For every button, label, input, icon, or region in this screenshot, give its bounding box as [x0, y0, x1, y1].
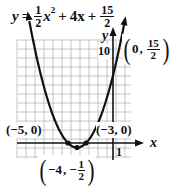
label-vertex: ( −4 , − 1 2 ): [38, 155, 96, 185]
point-vertex: [74, 145, 79, 150]
grid: [17, 40, 131, 158]
label-left-root: (−5, 0): [6, 122, 42, 138]
y-axis-label: y: [102, 28, 108, 44]
y-axis-arrow-icon: [110, 27, 117, 36]
curve-arrow-left-icon: [26, 11, 33, 20]
x-axis-arrow-icon: [135, 140, 144, 147]
curve-arrow-right-icon: [121, 16, 128, 25]
label-y-intercept: ( 0 , 15 2 ): [122, 34, 171, 64]
x-axis-label: x: [150, 135, 157, 151]
label-right-root: (−3, 0): [96, 122, 132, 138]
x-tick-label-1: 1: [116, 145, 122, 160]
point-left-root: [65, 140, 70, 145]
point-right-root: [83, 140, 88, 145]
y-tick-label-10: 10: [98, 44, 110, 59]
